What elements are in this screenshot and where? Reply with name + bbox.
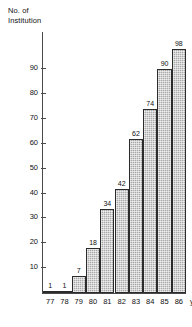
bar-value-label: 62: [129, 130, 143, 138]
y-axis-title: No. of Institution: [8, 6, 41, 25]
bar[interactable]: [172, 49, 186, 293]
bar[interactable]: [72, 276, 86, 293]
bar-value-label: 34: [100, 200, 114, 208]
y-tick-label: 30: [30, 212, 38, 221]
bar-chart-figure: No. of Institution 102030405060708090 11…: [0, 0, 192, 327]
y-tick-label: 90: [30, 63, 38, 72]
bar[interactable]: [157, 69, 171, 293]
bar-value-label: 18: [86, 239, 100, 247]
x-tick-label: 86: [172, 297, 186, 307]
x-axis-ticks: 77787980818283848586: [43, 297, 186, 309]
bar-slot: 1: [43, 32, 57, 293]
bar-value-label: 7: [72, 267, 86, 275]
bar-slot: 74: [143, 32, 157, 293]
bar-value-label: 1: [43, 282, 57, 290]
bar-value-label: 1: [57, 282, 71, 290]
y-tick-label: 40: [30, 188, 38, 197]
bar-slot: 90: [157, 32, 171, 293]
bar-value-label: 74: [143, 100, 157, 108]
x-tick-label: 81: [100, 297, 114, 307]
bar-slot: 42: [115, 32, 129, 293]
bar-value-label: 42: [115, 180, 129, 188]
bars-layer: 11718344262749098: [43, 32, 186, 293]
bar[interactable]: [129, 139, 143, 293]
bar[interactable]: [43, 291, 57, 293]
bar-slot: 18: [86, 32, 100, 293]
bar[interactable]: [143, 109, 157, 293]
bar-value-label: 98: [172, 40, 186, 48]
x-tick-label: 80: [86, 297, 100, 307]
y-tick-label: 80: [30, 88, 38, 97]
bar-value-label: 90: [157, 60, 171, 68]
y-tick-label: 20: [30, 237, 38, 246]
x-tick-label: 78: [57, 297, 71, 307]
x-axis-line: [42, 293, 186, 294]
bar[interactable]: [115, 189, 129, 293]
x-tick-label: 82: [115, 297, 129, 307]
x-tick-label: 85: [157, 297, 171, 307]
bar-slot: 34: [100, 32, 114, 293]
bar-slot: 7: [72, 32, 86, 293]
x-axis-title: year: [190, 297, 192, 307]
y-tick-label: 70: [30, 113, 38, 122]
y-tick-label: 10: [30, 262, 38, 271]
bar[interactable]: [86, 248, 100, 293]
x-tick-label: 84: [143, 297, 157, 307]
bar-slot: 62: [129, 32, 143, 293]
bar-slot: 1: [57, 32, 71, 293]
bar[interactable]: [100, 209, 114, 294]
bar-slot: 98: [172, 32, 186, 293]
x-tick-label: 79: [72, 297, 86, 307]
x-tick-label: 77: [43, 297, 57, 307]
y-tick-label: 60: [30, 138, 38, 147]
bar[interactable]: [57, 291, 71, 293]
plot-area: 102030405060708090 11718344262749098 777…: [42, 32, 186, 294]
y-tick-label: 50: [30, 163, 38, 172]
x-tick-label: 83: [129, 297, 143, 307]
